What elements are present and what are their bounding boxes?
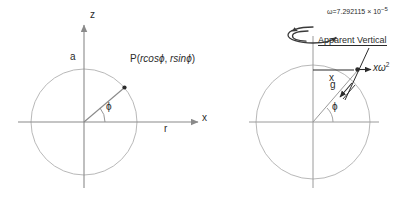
right-radius-line <box>313 70 358 122</box>
figure-root: z a r x ϕ P(rcosϕ, rsinϕ) ω=7.292115 × 1… <box>0 0 419 203</box>
centrifugal-expr: xω <box>373 62 386 73</box>
left-point-p-marker <box>122 85 126 89</box>
omega-annotation: ω=7.292115 × 10−5 <box>327 6 388 15</box>
left-x-axis-label: x <box>202 113 207 123</box>
centrifugal-label: xω2 <box>373 62 389 73</box>
rotation-ellipse-inner <box>293 31 309 41</box>
left-r-axis-label: r <box>164 124 167 134</box>
right-diagram-group <box>249 27 379 188</box>
left-phi-arc <box>100 108 105 122</box>
omega-exponent: −5 <box>381 6 388 12</box>
point-p-rsin: rsin <box>170 53 186 64</box>
point-p-rcos: rcos <box>140 53 159 64</box>
omega-value: =7.292115 × 10 <box>332 8 381 15</box>
left-phi-label: ϕ <box>106 102 112 112</box>
point-p-prefix: P( <box>130 53 140 64</box>
left-radius-a-label: a <box>70 52 76 62</box>
point-p-close: ) <box>192 53 195 64</box>
left-radius-line <box>84 88 124 122</box>
apparent-vertical-label: Apparent Vertical <box>318 36 387 46</box>
diagram-canvas <box>0 0 419 203</box>
gravity-label: g <box>330 80 336 90</box>
point-p-label: P(rcosϕ, rsinϕ) <box>130 54 195 64</box>
left-z-axis-label: z <box>90 10 95 20</box>
right-phi-label: ϕ <box>332 102 338 112</box>
centrifugal-exponent: 2 <box>386 61 390 68</box>
